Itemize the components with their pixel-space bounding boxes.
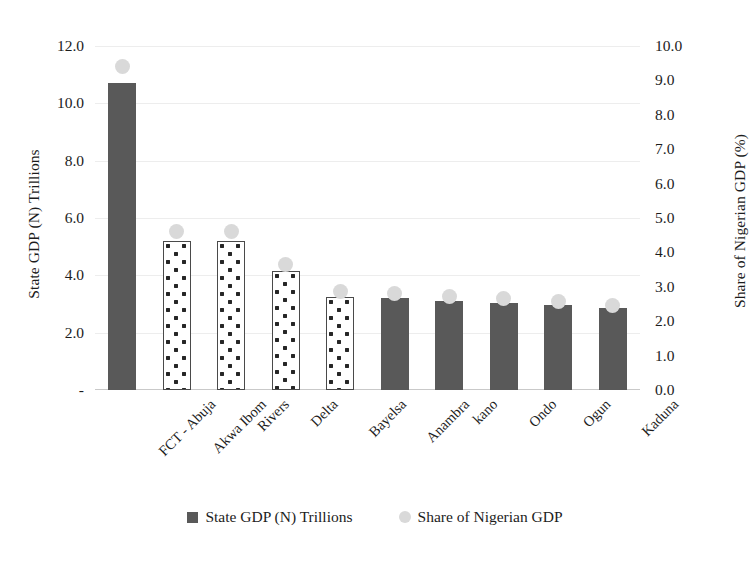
y-axis-right-tick-label: 5.0 [655, 210, 711, 226]
share-marker[interactable] [169, 224, 184, 239]
bar[interactable] [599, 308, 627, 390]
x-axis-tick-label: Delta [307, 396, 341, 430]
bar[interactable] [381, 298, 409, 390]
bar[interactable] [435, 301, 463, 390]
legend-label: State GDP (N) Trillions [205, 508, 352, 526]
y-axis-right-tick-label: 6.0 [655, 176, 711, 192]
y-axis-right-tick-label: 7.0 [655, 141, 711, 157]
y-axis-left-tick-label: 6.0 [28, 210, 84, 226]
legend-item[interactable]: Share of Nigerian GDP [399, 508, 563, 526]
bar-group[interactable] [531, 46, 586, 390]
x-axis-tick-label: kano [470, 396, 502, 428]
bar-group[interactable] [477, 46, 532, 390]
y-axis-right-tick-label: 9.0 [655, 72, 711, 88]
y-axis-right-tick-label: 1.0 [655, 348, 711, 364]
bar-group[interactable] [422, 46, 477, 390]
share-marker[interactable] [224, 224, 239, 239]
y-axis-left-tick-label: 8.0 [28, 153, 84, 169]
legend-item[interactable]: State GDP (N) Trillions [187, 508, 352, 526]
share-marker[interactable] [115, 59, 130, 74]
y-axis-right-tick-label: 3.0 [655, 279, 711, 295]
bar-group[interactable] [313, 46, 368, 390]
bar[interactable] [217, 241, 245, 390]
bar-group[interactable] [204, 46, 259, 390]
bar-group[interactable] [150, 46, 205, 390]
x-axis-tick-label: Bayelsa [366, 396, 410, 440]
bar[interactable] [108, 83, 136, 390]
plot-area [95, 46, 640, 390]
y-axis-left-tick-label: 12.0 [28, 38, 84, 54]
gdp-chart: State GDP (N) Trillions Share of Nigeria… [0, 0, 750, 575]
bar-group[interactable] [586, 46, 641, 390]
y-axis-right-tick-label: 4.0 [655, 244, 711, 260]
y-axis-right-title: Share of Nigerian GDP (%) [731, 91, 749, 351]
bar[interactable] [163, 241, 191, 390]
bar[interactable] [326, 297, 354, 390]
legend-square-icon [187, 512, 198, 523]
share-marker[interactable] [278, 257, 293, 272]
bar[interactable] [490, 303, 518, 390]
legend-label: Share of Nigerian GDP [418, 508, 563, 526]
x-axis-tick-label: FCT - Abuja [156, 396, 220, 460]
y-axis-right-tick-label: 0.0 [655, 382, 711, 398]
share-marker[interactable] [551, 294, 566, 309]
legend-circle-icon [399, 511, 411, 523]
x-axis-category-labels: FCT - AbujaAkwa IbomRiversDeltaBayelsaAn… [95, 390, 640, 490]
y-axis-left-tick-label: 10.0 [28, 95, 84, 111]
bar[interactable] [272, 271, 300, 390]
y-axis-right-tick-label: 8.0 [655, 107, 711, 123]
share-marker[interactable] [442, 289, 457, 304]
x-axis-tick-label: Ogun [580, 396, 615, 431]
y-axis-left-tick-label: 4.0 [28, 267, 84, 283]
x-axis-tick-label: Ondo [525, 396, 560, 431]
chart-legend: State GDP (N) TrillionsShare of Nigerian… [0, 508, 750, 526]
y-axis-left-ticks: -2.04.06.08.010.012.0 [28, 0, 84, 575]
bar-group[interactable] [95, 46, 150, 390]
y-axis-right-ticks: 0.01.02.03.04.05.06.07.08.09.010.0 [655, 0, 711, 575]
bar[interactable] [544, 305, 572, 390]
x-axis-tick-label: Anambra [423, 396, 473, 446]
y-axis-right-tick-label: 2.0 [655, 313, 711, 329]
y-axis-left-tick-label: 2.0 [28, 325, 84, 341]
bar-group[interactable] [368, 46, 423, 390]
y-axis-right-tick-label: 10.0 [655, 38, 711, 54]
y-axis-left-tick-label: - [28, 382, 84, 398]
bar-group[interactable] [259, 46, 314, 390]
